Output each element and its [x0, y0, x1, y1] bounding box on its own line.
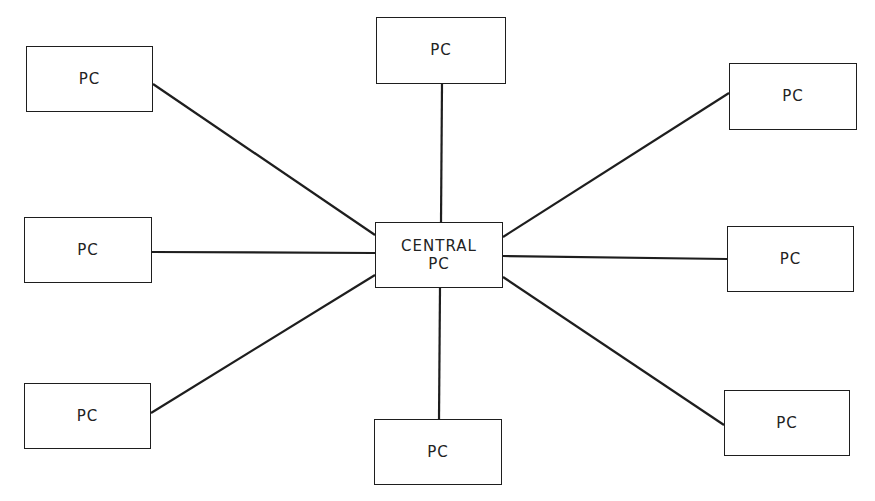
node-label: PC — [782, 88, 804, 105]
node-label: PC — [776, 415, 798, 432]
central-node-label: CENTRAL PC — [401, 237, 477, 273]
node-label: PC — [430, 42, 452, 59]
pc-node-top: PC — [376, 17, 506, 84]
node-label: PC — [79, 71, 101, 88]
edge-bottom-left — [151, 275, 375, 413]
node-label: PC — [427, 444, 449, 461]
pc-node-bottom: PC — [374, 419, 502, 485]
pc-node-bottom-right: PC — [724, 390, 850, 456]
edge-middle-right — [503, 256, 727, 259]
edge-top-right — [503, 93, 729, 237]
edge-middle-left — [152, 252, 375, 253]
node-label: PC — [780, 251, 802, 268]
pc-node-middle-left: PC — [24, 217, 152, 283]
pc-node-top-left: PC — [26, 46, 153, 112]
pc-node-middle-right: PC — [727, 226, 854, 292]
node-label: PC — [77, 242, 99, 259]
node-label: PC — [77, 408, 99, 425]
central-pc-node: CENTRAL PC — [375, 222, 503, 288]
edge-bottom — [439, 288, 440, 419]
edge-top-left — [153, 84, 375, 235]
pc-node-top-right: PC — [729, 63, 857, 130]
star-network-diagram: PC PC PC PC PC PC PC PC CENTRAL PC — [0, 0, 875, 501]
edge-top — [441, 84, 442, 222]
edge-bottom-right — [503, 277, 724, 425]
pc-node-bottom-left: PC — [24, 383, 151, 449]
